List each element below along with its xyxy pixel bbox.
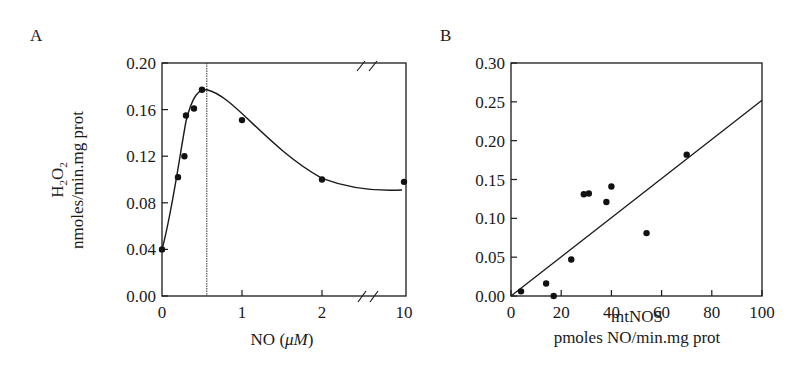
chart-b-data-points: [518, 151, 690, 299]
x-tick-label: 80: [703, 303, 720, 322]
data-point: [603, 199, 609, 205]
chart-b: 0.000.050.100.150.200.250.30 02040608010…: [475, 54, 775, 347]
y-tick-label: 0.10: [475, 209, 505, 228]
data-point: [175, 174, 181, 180]
data-point: [643, 230, 649, 236]
x-tick-label: 20: [553, 303, 570, 322]
chart-a-x-ticks: 01210: [158, 290, 413, 322]
x-tick-label: 1: [238, 303, 247, 322]
chart-a-frame: [162, 63, 406, 296]
y-tick-label: 0.12: [126, 147, 156, 166]
data-point: [550, 293, 556, 299]
data-point: [191, 105, 197, 111]
y-tick-label: 0.08: [126, 194, 156, 213]
chart-a-y-label-units: nmoles/min.mg prot: [68, 111, 87, 249]
data-point: [239, 117, 245, 123]
y-tick-label: 0.20: [126, 54, 156, 73]
data-point: [568, 256, 574, 262]
y-tick-label: 0.30: [475, 54, 505, 73]
y-tick-label: 0.04: [126, 240, 156, 259]
data-point: [543, 280, 549, 286]
chart-a-y-label: H2O2: [48, 162, 69, 198]
data-point: [181, 153, 187, 159]
chart-b-regression-line: [511, 100, 762, 296]
y-tick-label: 0.05: [475, 248, 505, 267]
data-point: [319, 176, 325, 182]
x-tick-label: 100: [749, 303, 775, 322]
y-tick-label: 0.20: [475, 132, 505, 151]
data-point: [183, 112, 189, 118]
data-point: [199, 87, 205, 93]
svg-text:H2O2: H2O2: [48, 162, 69, 198]
y-tick-label: 0.25: [475, 93, 505, 112]
data-point: [518, 288, 524, 294]
chart-b-x-label-units: pmoles NO/min.mg prot: [554, 328, 721, 347]
panel-label-b: B: [440, 26, 451, 45]
figure: A B 0.000.040.080.120.160.20 01210 H2O2 …: [0, 0, 808, 391]
x-tick-label: 0: [158, 303, 167, 322]
data-point: [401, 179, 407, 185]
y-tick-label: 0.00: [126, 287, 156, 306]
data-point: [159, 246, 165, 252]
y-tick-label: 0.15: [475, 171, 505, 190]
data-point: [608, 183, 614, 189]
x-tick-label: 2: [318, 303, 327, 322]
data-point: [586, 190, 592, 196]
chart-b-frame: [511, 63, 762, 296]
data-point: [684, 151, 690, 157]
panel-label-a: A: [30, 26, 43, 45]
x-tick-label: 0: [507, 303, 516, 322]
chart-a-fit-curve: [162, 90, 402, 250]
chart-b-x-label: mtNOS: [611, 307, 663, 326]
chart-a-x-label: NO (μM): [251, 330, 314, 349]
chart-a: 0.000.040.080.120.160.20 01210 H2O2 nmol…: [48, 54, 413, 349]
y-tick-label: 0.16: [126, 101, 156, 120]
y-tick-label: 0.00: [475, 287, 505, 306]
x-tick-label: 10: [396, 303, 413, 322]
chart-a-data-points: [159, 87, 407, 253]
